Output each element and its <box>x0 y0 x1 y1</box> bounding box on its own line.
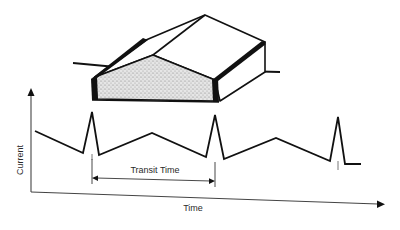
device-block <box>73 15 280 102</box>
x-axis-arrow-icon <box>377 201 385 209</box>
left-electrode <box>91 76 98 100</box>
diagram-svg: Current Time Transit Time <box>0 0 400 230</box>
transit-time-label: Transit Time <box>130 165 179 175</box>
y-axis-arrow-icon <box>28 88 35 96</box>
transit-right-arrow-icon <box>209 178 215 184</box>
diagram-canvas: Current Time Transit Time <box>0 0 400 230</box>
current-waveform <box>35 112 361 164</box>
axes <box>28 88 386 208</box>
y-axis-label: Current <box>15 144 25 175</box>
transit-time-line <box>96 178 211 181</box>
transit-left-arrow-icon <box>92 176 98 182</box>
x-axis-label: Time <box>183 203 203 213</box>
x-axis <box>31 192 378 204</box>
transit-time-annotation: Transit Time <box>92 159 215 187</box>
right-electrode <box>212 78 219 102</box>
